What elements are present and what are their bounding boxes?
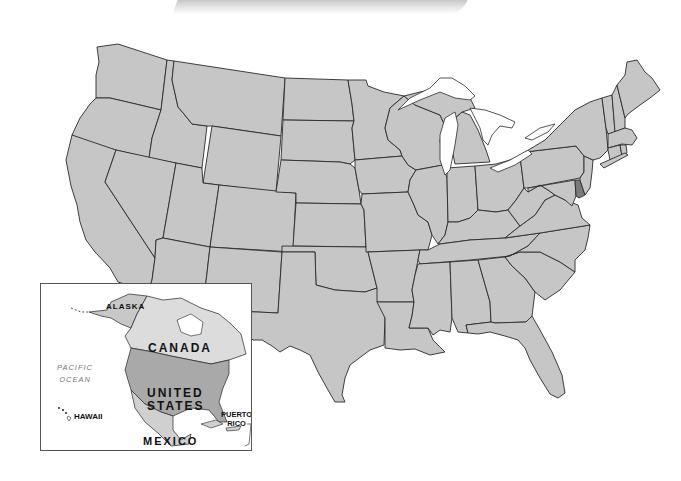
label-mexico: MEXICO (143, 435, 198, 447)
state-florida[interactable] (466, 316, 565, 398)
state-maine[interactable] (617, 60, 660, 118)
state-kansas[interactable] (293, 203, 366, 247)
state-north-dakota[interactable] (283, 78, 354, 121)
state-mississippi[interactable] (409, 262, 452, 335)
state-colorado[interactable] (210, 185, 296, 252)
label-pacific: PACIFIC (57, 362, 93, 374)
north-america-inset: ALASKA CANADA UNITED STATES MEXICO HAWAI… (40, 283, 252, 451)
label-hawaii: HAWAII (74, 412, 102, 421)
label-states: STATES (147, 399, 205, 413)
label-puerto: PUERTO (221, 410, 252, 419)
label-canada: CANADA (148, 341, 212, 355)
label-ocean: OCEAN (57, 374, 93, 386)
label-puerto-rico: PUERTO RICO (221, 410, 252, 428)
state-wyoming[interactable] (203, 126, 281, 192)
state-south-dakota[interactable] (281, 120, 355, 164)
label-rico: RICO (221, 419, 252, 428)
label-pacific-ocean: PACIFIC OCEAN (57, 362, 93, 386)
label-alaska: ALASKA (106, 302, 145, 311)
state-indiana[interactable] (447, 166, 478, 222)
label-united: UNITED (147, 386, 204, 400)
